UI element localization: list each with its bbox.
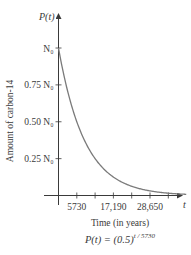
- y-tick-label: 0.50 N₀: [24, 117, 53, 127]
- y-tick-label: N₀: [43, 44, 53, 54]
- y-ticks: N₀0.75 N₀0.50 N₀0.25 N₀: [24, 44, 61, 165]
- formula: P(t) = (0.5)t / 5730: [84, 232, 156, 246]
- x-axis-var-label: t: [183, 199, 186, 210]
- formula-lhs: P(t) = (0.5): [84, 234, 134, 246]
- y-axis-var-label: P(t): [38, 11, 55, 23]
- x-axis-title: Time (in years): [91, 218, 149, 229]
- y-tick-label: 0.25 N₀: [24, 154, 53, 164]
- decay-curve: [59, 48, 187, 194]
- y-axis-title: Amount of carbon-14: [5, 80, 15, 163]
- formula-exponent: t / 5730: [134, 232, 156, 240]
- x-tick-label: 17,190: [100, 202, 126, 212]
- x-tick-label: 5730: [67, 202, 86, 212]
- chart: N₀0.75 N₀0.50 N₀0.25 N₀ 573017,19028,650…: [0, 0, 191, 255]
- y-tick-label: 0.75 N₀: [24, 80, 53, 90]
- x-tick-label: 28,650: [137, 202, 163, 212]
